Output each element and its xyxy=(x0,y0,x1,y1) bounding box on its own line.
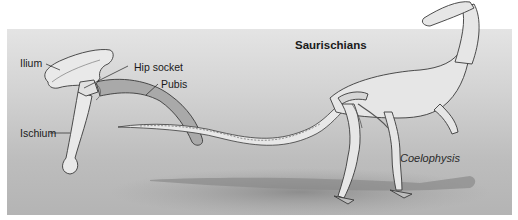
label-pubis: Pubis xyxy=(161,79,187,90)
species-label: Coelophysis xyxy=(400,153,460,164)
ground-shadow xyxy=(110,168,490,216)
label-ilium: Ilium xyxy=(20,58,42,69)
group-title: Saurischians xyxy=(295,40,367,52)
label-ischium: Ischium xyxy=(20,128,56,139)
label-hip-socket: Hip socket xyxy=(134,62,183,73)
saurischian-illustration xyxy=(0,0,518,220)
tail xyxy=(118,104,344,145)
